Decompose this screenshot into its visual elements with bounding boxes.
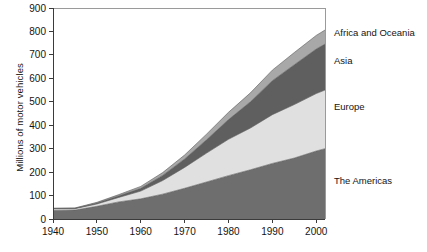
series-label-asia: Asia xyxy=(334,55,353,66)
stacked-area-chart: 0100200300400500600700800900 19401950196… xyxy=(0,0,427,252)
chart-figure: Millions of motor vehicles 0100200300400… xyxy=(0,0,427,252)
x-tick-label: 2000 xyxy=(305,226,328,237)
x-tick-label: 1940 xyxy=(42,226,65,237)
x-tick-label: 1960 xyxy=(130,226,153,237)
y-tick-label: 300 xyxy=(29,143,46,154)
series-label-the-americas: The Americas xyxy=(334,175,392,186)
series-label-europe: Europe xyxy=(334,101,365,112)
y-tick-label: 500 xyxy=(29,96,46,107)
x-tick-label: 1990 xyxy=(261,226,284,237)
x-tick-label: 1970 xyxy=(173,226,196,237)
x-tick-label: 1980 xyxy=(217,226,240,237)
y-tick-label: 900 xyxy=(29,3,46,14)
series-label-africa-and-oceania: Africa and Oceania xyxy=(334,27,416,38)
y-tick-label: 800 xyxy=(29,26,46,37)
y-tick-label: 100 xyxy=(29,190,46,201)
series-labels: Africa and OceaniaAsiaEuropeThe Americas xyxy=(334,27,416,186)
y-tick-label: 400 xyxy=(29,120,46,131)
y-tick-label: 0 xyxy=(40,214,46,225)
x-tick-label: 1950 xyxy=(86,226,109,237)
y-axis-ticks: 0100200300400500600700800900 xyxy=(29,3,53,225)
y-tick-label: 600 xyxy=(29,73,46,84)
y-tick-label: 700 xyxy=(29,49,46,60)
x-axis-ticks: 1940195019601970198019902000 xyxy=(42,219,328,237)
y-tick-label: 200 xyxy=(29,167,46,178)
